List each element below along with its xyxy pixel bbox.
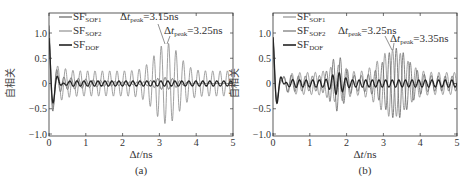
x-tick-label: 2 (344, 137, 349, 148)
x-tick-label: 4 (418, 137, 423, 148)
legend-entry: SFSOF2 (297, 24, 326, 38)
legend-entry: SFSOF1 (297, 10, 326, 24)
legend-entry: SFDOF (297, 38, 323, 52)
x-tick-label: 5 (231, 137, 236, 148)
chart-panel-b: 0123451.00.50−0.5−1.0自相关Δt/ns(b)SFSOF1SF… (228, 10, 460, 177)
chart-panel-a: 0123451.00.50−0.5−1.0自相关Δt/ns(a)SFSOF1SF… (4, 10, 236, 177)
y-tick-label: 0.5 (35, 53, 48, 64)
peak-annotation: Δtpeak=3.25ns (338, 24, 397, 38)
legend-entry: SFDOF (73, 38, 99, 52)
y-tick-label: 1.0 (259, 28, 272, 39)
legend-entry: SFSOF2 (73, 24, 102, 38)
y-tick-label: −1.0 (29, 129, 47, 140)
legend-entry: SFSOF1 (73, 10, 102, 24)
y-axis-label: 自相关 (228, 68, 240, 98)
peak-annotation: Δtpeak=3.25ns (164, 24, 223, 38)
y-tick-label: −0.5 (253, 103, 271, 114)
x-tick-label: 4 (194, 137, 199, 148)
y-tick-label: 0 (42, 78, 47, 89)
y-axis-label: 自相关 (4, 68, 16, 98)
x-tick-label: 5 (455, 137, 460, 148)
x-axis-label: Δt/ns (130, 148, 153, 160)
x-tick-label: 0 (271, 137, 276, 148)
x-tick-label: 2 (120, 137, 125, 148)
peak-annotation: Δtpeak=3.35ns (390, 32, 449, 46)
peak-annotation: Δtpeak=3.15ns (120, 10, 179, 24)
x-tick-label: 1 (307, 137, 312, 148)
autocorrelation-figure: 0123451.00.50−0.5−1.0自相关Δt/ns(a)SFSOF1SF… (0, 0, 470, 178)
panel-label: (a) (135, 164, 148, 177)
y-tick-label: 0.5 (259, 53, 272, 64)
y-tick-label: 1.0 (35, 28, 48, 39)
x-tick-label: 1 (83, 137, 88, 148)
panel-label: (b) (359, 164, 372, 177)
y-tick-label: 0 (266, 78, 271, 89)
x-axis-label: Δt/ns (354, 148, 377, 160)
x-tick-label: 3 (381, 137, 386, 148)
x-tick-label: 0 (47, 137, 52, 148)
x-tick-label: 3 (157, 137, 162, 148)
y-tick-label: −1.0 (253, 129, 271, 140)
y-tick-label: −0.5 (29, 103, 47, 114)
